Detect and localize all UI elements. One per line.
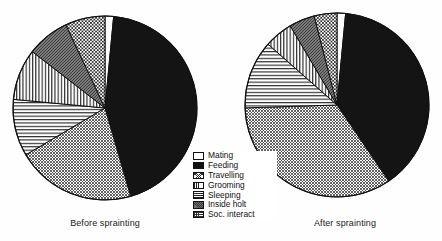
- legend-label: Soc. interact: [208, 210, 255, 219]
- pie-caption-before: Before sprainting: [45, 218, 165, 228]
- legend-swatch-solid-white: [193, 152, 204, 160]
- legend-swatch-dark-gray-hatch: [193, 201, 204, 209]
- figure-pie-charts: Before sprainting After sprainting Matin…: [0, 0, 442, 241]
- legend-item-grooming: Grooming: [193, 180, 277, 190]
- legend-label: Travelling: [208, 171, 244, 180]
- legend-label: Inside holt: [208, 200, 246, 209]
- legend-swatch-vertical-lines: [193, 182, 204, 190]
- pie-before-svg: [0, 0, 220, 215]
- legend-swatch-horizontal-lines: [193, 191, 204, 199]
- legend-label: Mating: [208, 151, 233, 160]
- legend-swatch-checker-dots: [193, 211, 204, 219]
- legend: MatingFeedingTravellingGroomingSleepingI…: [193, 151, 277, 220]
- legend-item-soc-interact: Soc. interact: [193, 210, 277, 220]
- pie-chart-before: [0, 0, 220, 215]
- legend-item-travelling: Travelling: [193, 171, 277, 181]
- legend-swatch-fine-crosshatch: [193, 172, 204, 180]
- legend-label: Sleeping: [208, 191, 241, 200]
- legend-swatch-solid-black: [193, 162, 204, 170]
- legend-label: Feeding: [208, 161, 238, 170]
- legend-label: Grooming: [208, 181, 245, 190]
- pie-caption-after: After sprainting: [285, 218, 405, 228]
